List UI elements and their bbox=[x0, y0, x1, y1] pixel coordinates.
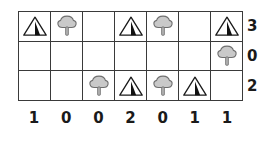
grid-cell-empty[interactable] bbox=[19, 42, 51, 72]
grid-cell-empty[interactable] bbox=[83, 42, 115, 72]
column-clue: 1 bbox=[211, 104, 243, 132]
column-clue: 0 bbox=[82, 104, 114, 132]
grid-cell-tree[interactable] bbox=[147, 71, 179, 101]
tree-icon-glyph bbox=[151, 14, 175, 38]
row-clue: 0 bbox=[247, 41, 273, 71]
grid-cell-tent[interactable] bbox=[179, 71, 211, 101]
grid-cell-empty[interactable] bbox=[179, 12, 211, 42]
grid-cell-tent[interactable] bbox=[19, 12, 51, 42]
tree-icon-glyph bbox=[87, 74, 111, 98]
row-clue: 2 bbox=[247, 71, 273, 101]
tent-icon-glyph bbox=[118, 75, 144, 97]
grid-cell-empty[interactable] bbox=[115, 42, 147, 72]
row-clues: 302 bbox=[247, 11, 273, 101]
row-clue: 3 bbox=[247, 11, 273, 41]
grid-cell-tree[interactable] bbox=[211, 42, 243, 72]
tent-icon-glyph bbox=[214, 15, 240, 37]
grid-cell-empty[interactable] bbox=[211, 71, 243, 101]
tent-icon-glyph bbox=[118, 15, 144, 37]
tent-icon-glyph bbox=[22, 15, 48, 37]
grid-cell-empty[interactable] bbox=[19, 71, 51, 101]
grid-cell-tent[interactable] bbox=[115, 12, 147, 42]
grid-cell-tent[interactable] bbox=[115, 71, 147, 101]
column-clue: 0 bbox=[147, 104, 179, 132]
grid-cell-tree[interactable] bbox=[147, 12, 179, 42]
grid-cell-tent[interactable] bbox=[211, 12, 243, 42]
tree-icon-glyph bbox=[151, 74, 175, 98]
puzzle-grid bbox=[18, 11, 243, 101]
tree-icon-glyph bbox=[215, 44, 239, 68]
column-clue: 2 bbox=[114, 104, 146, 132]
grid-cell-empty[interactable] bbox=[51, 71, 83, 101]
grid-cell-empty[interactable] bbox=[179, 42, 211, 72]
column-clue: 1 bbox=[18, 104, 50, 132]
column-clue: 1 bbox=[179, 104, 211, 132]
grid-cell-empty[interactable] bbox=[83, 12, 115, 42]
tree-icon-glyph bbox=[55, 14, 79, 38]
column-clue: 0 bbox=[50, 104, 82, 132]
grid-cell-tree[interactable] bbox=[83, 71, 115, 101]
tent-icon-glyph bbox=[182, 75, 208, 97]
column-clues: 1002011 bbox=[18, 104, 243, 132]
tents-and-trees-puzzle: 302 1002011 bbox=[0, 0, 276, 143]
grid-cell-tree[interactable] bbox=[51, 12, 83, 42]
grid-cell-empty[interactable] bbox=[147, 42, 179, 72]
grid-cell-empty[interactable] bbox=[51, 42, 83, 72]
